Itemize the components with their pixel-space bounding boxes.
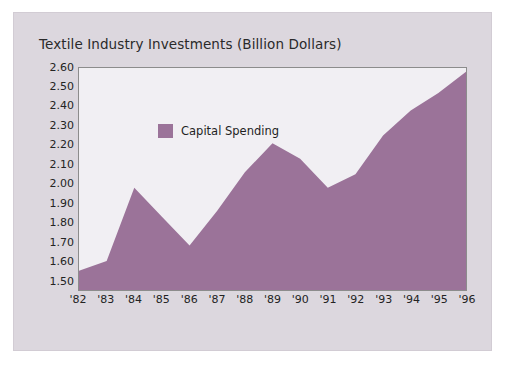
chart-figure: Textile Industry Investments (Billion Do…	[0, 0, 519, 368]
x-axis-tick: '88	[236, 293, 253, 306]
x-axis-tick: '92	[347, 293, 364, 306]
y-axis-tick: 1.60	[50, 256, 75, 267]
x-axis-tick: '83	[97, 293, 114, 306]
x-axis-tick: '84	[125, 293, 142, 306]
y-axis-tick: 2.30	[50, 120, 75, 131]
x-axis-tick: '86	[181, 293, 198, 306]
x-axis-tick: '82	[69, 293, 86, 306]
x-axis-tick: '91	[320, 293, 337, 306]
chart-title: Textile Industry Investments (Billion Do…	[39, 36, 342, 52]
x-axis-tick: '94	[403, 293, 420, 306]
legend-swatch-capital-spending	[158, 124, 173, 138]
x-axis-tick: '95	[431, 293, 448, 306]
y-axis-tick: 1.90	[50, 198, 75, 209]
x-axis-tick: '85	[153, 293, 170, 306]
y-axis-tick: 1.50	[50, 276, 75, 287]
x-axis-tick: '90	[292, 293, 309, 306]
x-axis-tick: '87	[208, 293, 225, 306]
y-axis-tick: 2.50	[50, 81, 75, 92]
x-axis-tick: '89	[264, 293, 281, 306]
area-series-capital-spending	[79, 68, 466, 290]
y-axis-tick: 2.00	[50, 178, 75, 189]
y-axis-tick: 2.60	[50, 62, 75, 73]
area-polygon	[79, 72, 466, 290]
y-axis-tick: 1.70	[50, 237, 75, 248]
y-axis-tick: 2.40	[50, 100, 75, 111]
x-axis-tick: '93	[375, 293, 392, 306]
y-axis: 2.602.502.402.302.202.102.001.901.801.70…	[36, 61, 74, 297]
y-axis-tick: 2.20	[50, 139, 75, 150]
y-axis-tick: 1.80	[50, 217, 75, 228]
plot-area	[78, 67, 467, 291]
legend-label-capital-spending: Capital Spending	[181, 124, 279, 138]
chart-legend: Capital Spending	[158, 124, 279, 138]
x-axis-tick: '96	[458, 293, 475, 306]
y-axis-tick: 2.10	[50, 159, 75, 170]
x-axis: '82'83'84'85'86'87'88'89'90'91'92'93'94'…	[78, 293, 467, 313]
